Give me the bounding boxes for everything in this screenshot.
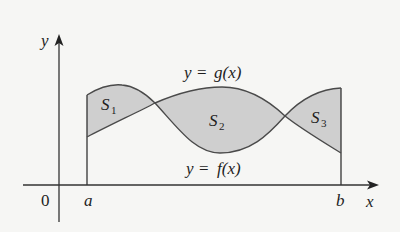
g-label-fn: g(x) xyxy=(214,63,242,82)
region-s1 xyxy=(87,85,155,137)
region-s2-sub: 2 xyxy=(219,120,225,132)
y-axis-label: y xyxy=(39,31,49,50)
a-label: a xyxy=(84,191,93,210)
region-s1-sub: 1 xyxy=(111,104,117,116)
region-s3-name: S xyxy=(311,108,320,127)
f-label-y: y xyxy=(184,159,194,178)
f-curve-label: y = f(x) xyxy=(184,159,241,178)
area-between-curves-diagram: y x 0 a b y = g(x) y = f(x) S 1 S 2 S 3 xyxy=(0,0,400,232)
region-s1-name: S xyxy=(101,95,110,114)
f-label-fn: f(x) xyxy=(217,159,241,178)
region-s3-sub: 3 xyxy=(321,117,327,129)
g-label-eq: = xyxy=(197,63,207,82)
region-s2-name: S xyxy=(209,111,218,130)
origin-label: 0 xyxy=(41,191,50,210)
g-label-y: y xyxy=(182,63,192,82)
x-axis-label: x xyxy=(365,192,374,211)
b-label: b xyxy=(336,191,345,210)
g-curve-label: y = g(x) xyxy=(182,63,242,82)
f-label-eq: = xyxy=(199,159,209,178)
